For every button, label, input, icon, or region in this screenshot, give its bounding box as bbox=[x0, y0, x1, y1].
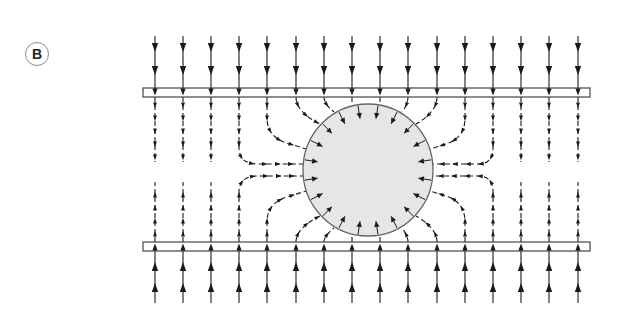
sphere bbox=[303, 104, 433, 236]
field-diagram bbox=[0, 0, 618, 309]
